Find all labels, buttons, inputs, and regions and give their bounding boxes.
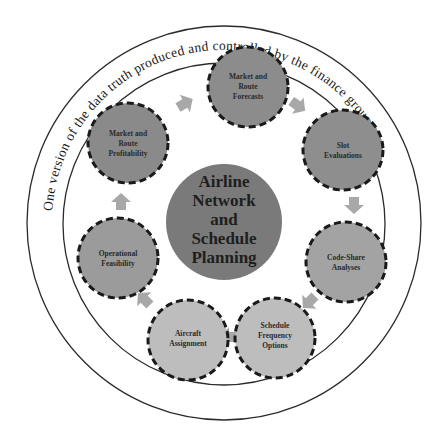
node-label-line: Operational bbox=[99, 249, 138, 258]
node-aircraft-assignment: Aircraft Assignment bbox=[148, 300, 228, 380]
node-market-route-profitability: Market and Route Profitability bbox=[88, 103, 168, 183]
node-circle bbox=[306, 222, 386, 302]
node-schedule-frequency-options: Schedule Frequency Options bbox=[235, 298, 315, 378]
node-circle bbox=[78, 218, 158, 298]
node-slot-evaluations: Slot Evaluations bbox=[303, 110, 383, 190]
arrow-operational-to-profitability-icon bbox=[111, 193, 131, 210]
node-label-line: Evaluations bbox=[324, 151, 362, 160]
node-label-line: Code-Share bbox=[327, 253, 365, 262]
node-circle bbox=[303, 110, 383, 190]
center-label-line-4: Schedule bbox=[191, 229, 257, 248]
center-label-line-5: Planning bbox=[191, 248, 257, 267]
node-label-line: Forecasts bbox=[233, 92, 263, 101]
node-label-line: Market and bbox=[109, 129, 148, 138]
node-code-share-analyses: Code-Share Analyses bbox=[306, 222, 386, 302]
arrow-forecasts-to-slot-icon bbox=[286, 93, 311, 119]
center-label-line-3: and bbox=[210, 210, 238, 229]
node-label-line: Options bbox=[262, 341, 288, 350]
center-label-line-1: Airline bbox=[199, 172, 250, 191]
node-label-line: Market and bbox=[229, 72, 268, 81]
planning-cycle-diagram: One version of the data truth produced a… bbox=[0, 0, 448, 448]
node-label-line: Assignment bbox=[169, 339, 207, 348]
node-label-line: Schedule bbox=[261, 321, 290, 330]
center-label-line-2: Network bbox=[192, 191, 256, 210]
center-hub: Airline Network and Schedule Planning bbox=[166, 164, 282, 280]
node-label-line: Route bbox=[238, 82, 258, 91]
node-label-line: Analyses bbox=[332, 263, 360, 272]
node-label-line: Frequency bbox=[258, 331, 292, 340]
arrow-slot-to-codeshare-icon bbox=[344, 197, 364, 214]
arrow-profitability-to-forecasts-icon bbox=[173, 90, 198, 116]
node-label-line: Route bbox=[118, 139, 138, 148]
node-label-line: Profitability bbox=[108, 149, 147, 158]
node-market-route-forecasts: Market and Route Forecasts bbox=[208, 47, 288, 127]
node-label-line: Slot bbox=[337, 141, 350, 150]
node-label-line: Aircraft bbox=[175, 329, 202, 338]
node-label-line: Feasibility bbox=[101, 259, 135, 268]
node-operational-feasibility: Operational Feasibility bbox=[78, 218, 158, 298]
